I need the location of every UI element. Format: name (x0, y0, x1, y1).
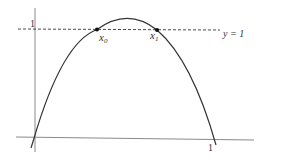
parabola-diagram: 1 1 y = 1 x0 x1 (0, 0, 288, 159)
x-axis (16, 137, 254, 140)
point-label-x0: x0 (98, 31, 108, 45)
diagram-canvas: 1 1 y = 1 x0 x1 (0, 0, 288, 159)
x-axis-tick-label: 1 (208, 142, 213, 153)
y-axis-tick-label: 1 (30, 18, 35, 29)
point-x1 (155, 28, 159, 32)
point-label-x1-sub: 1 (155, 35, 159, 43)
point-label-x0-sub: 0 (104, 37, 108, 45)
parabola-curve (31, 18, 216, 148)
dashed-line-label: y = 1 (222, 28, 244, 39)
dashed-line-y-equals-1 (18, 29, 220, 30)
